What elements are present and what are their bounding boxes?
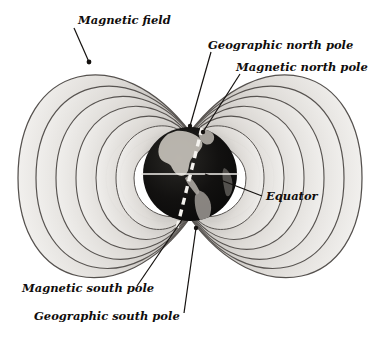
label-geographic-north-pole: Geographic north pole: [208, 38, 353, 52]
label-geographic-south-pole: Geographic south pole: [34, 309, 180, 323]
leader-dot-geographic-south-pole: [194, 226, 198, 230]
label-magnetic-north-pole: Magnetic north pole: [235, 60, 368, 74]
leader-magnetic-field: [74, 28, 89, 62]
label-magnetic-south-pole: Magnetic south pole: [21, 281, 154, 295]
magnetic-field-diagram: Magnetic field Geographic north pole Mag…: [0, 0, 384, 343]
label-magnetic-field: Magnetic field: [77, 13, 171, 27]
leader-dot-geographic-north-pole: [188, 124, 192, 128]
leader-dot-magnetic-field: [87, 60, 92, 65]
leader-geographic-south-pole: [184, 228, 196, 313]
leader-dot-magnetic-north-pole: [201, 130, 205, 134]
diagram-canvas: Magnetic field Geographic north pole Mag…: [0, 0, 384, 343]
label-equator: Equator: [265, 189, 319, 203]
